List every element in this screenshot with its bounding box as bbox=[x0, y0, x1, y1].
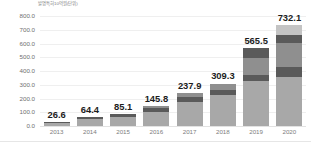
x-tick-label: 2014 bbox=[73, 128, 106, 136]
bar-segment bbox=[243, 58, 269, 75]
x-tick-label: 2016 bbox=[140, 128, 173, 136]
x-tick-label: 2018 bbox=[206, 128, 239, 136]
x-tick-label: 2015 bbox=[107, 128, 140, 136]
bar-2019[interactable] bbox=[243, 48, 269, 126]
bar-segment bbox=[210, 95, 236, 126]
gridline bbox=[40, 30, 306, 31]
value-label: 565.5 bbox=[233, 36, 279, 46]
y-tick-label: 0.0 bbox=[26, 123, 35, 129]
bar-segment bbox=[243, 48, 269, 58]
y-tick-label: 300.0 bbox=[20, 82, 35, 88]
bar-segment bbox=[276, 35, 302, 44]
bar-2017[interactable] bbox=[177, 93, 203, 126]
bar-2016[interactable] bbox=[143, 106, 169, 126]
bar-2018[interactable] bbox=[210, 84, 236, 127]
value-label: 237.9 bbox=[167, 81, 213, 91]
x-axis: 20132014201520162017201820192020 bbox=[40, 128, 306, 140]
plot-area: 26.664.485.1145.8237.9309.3565.5732.1 bbox=[40, 16, 306, 126]
x-tick-label: 2017 bbox=[173, 128, 206, 136]
value-label: 309.3 bbox=[200, 71, 246, 81]
x-tick-label: 2013 bbox=[40, 128, 73, 136]
bar-2015[interactable] bbox=[110, 114, 136, 126]
y-tick-label: 500.0 bbox=[20, 54, 35, 60]
bar-segment bbox=[110, 117, 136, 126]
bar-2020[interactable] bbox=[276, 25, 302, 126]
bar-segment bbox=[276, 77, 302, 127]
y-tick-label: 800.0 bbox=[20, 13, 35, 19]
bar-2014[interactable] bbox=[77, 117, 103, 126]
x-tick-label: 2019 bbox=[240, 128, 273, 136]
y-tick-label: 400.0 bbox=[20, 68, 35, 74]
bar-segment bbox=[243, 81, 269, 126]
unit-label: 발명특허10억원(단위) bbox=[38, 1, 78, 7]
y-tick-label: 700.0 bbox=[20, 27, 35, 33]
y-axis: 0.0100.0200.0300.0400.0500.0600.0700.080… bbox=[0, 16, 37, 126]
bar-segment bbox=[44, 123, 70, 126]
value-label: 145.8 bbox=[133, 94, 179, 104]
bar-segment bbox=[276, 67, 302, 76]
bar-segment bbox=[177, 102, 203, 126]
gridline bbox=[40, 126, 306, 127]
bar-chart: 발명특허10억원(단위) 0.0100.0200.0300.0400.0500.… bbox=[0, 0, 311, 149]
bar-segment bbox=[143, 112, 169, 126]
bar-2013[interactable] bbox=[44, 122, 70, 126]
bar-segment bbox=[276, 43, 302, 67]
x-tick-label: 2020 bbox=[273, 128, 306, 136]
bar-segment bbox=[276, 25, 302, 35]
axis-rule bbox=[0, 141, 311, 142]
value-label: 732.1 bbox=[266, 13, 311, 23]
y-tick-label: 200.0 bbox=[20, 96, 35, 102]
bar-segment bbox=[210, 84, 236, 91]
y-tick-label: 600.0 bbox=[20, 41, 35, 47]
bar-segment bbox=[77, 119, 103, 126]
